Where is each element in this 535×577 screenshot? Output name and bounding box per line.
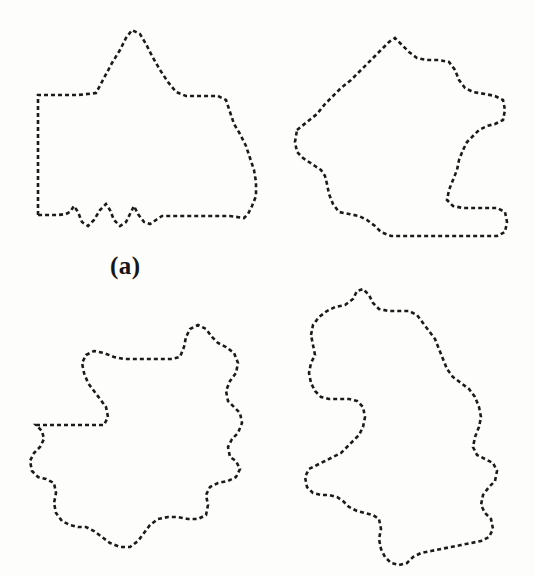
figure-panel-b: (b): [267, 0, 535, 290]
dotted-contour-c: [30, 325, 242, 547]
contour-canvas-a: [0, 0, 268, 290]
dotted-contour-b: [295, 38, 507, 236]
panel-label-a: (a): [110, 253, 141, 278]
figure-container: (a) (b) (c) (d): [0, 0, 535, 577]
contour-canvas-d: [267, 285, 535, 577]
dotted-contour-d: [305, 289, 497, 565]
figure-panel-c: (c): [0, 285, 268, 577]
contour-canvas-c: [0, 285, 268, 577]
contour-canvas-b: [267, 0, 535, 290]
figure-panel-a: (a): [0, 0, 268, 290]
dotted-contour-a: [38, 30, 256, 226]
figure-panel-d: (d): [267, 285, 535, 577]
